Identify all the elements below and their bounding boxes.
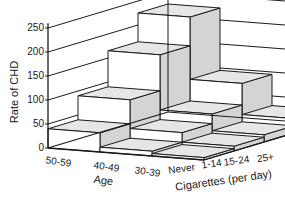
age-label: 30-39 xyxy=(134,164,161,179)
y-tick-labels: 0 50 100 150 200 250 xyxy=(27,22,44,153)
y-tick: 50 xyxy=(33,118,45,129)
y-tick: 0 xyxy=(38,142,44,153)
cig-label: Never xyxy=(168,161,197,176)
cig-label: 1-14 xyxy=(201,157,223,171)
y-tick: 200 xyxy=(27,46,44,57)
cig-label: 15-24 xyxy=(223,153,250,168)
y-axis-label: Rate of CHD xyxy=(8,61,20,123)
bars xyxy=(48,4,285,160)
cig-label: 25+ xyxy=(256,151,274,164)
y-tick: 250 xyxy=(27,22,44,33)
y-tick: 100 xyxy=(27,94,44,105)
gridline-back-wall xyxy=(168,0,285,4)
y-tick: 150 xyxy=(27,70,44,81)
age-label: 40-49 xyxy=(93,159,120,174)
chd-3d-bar-chart: 0 50 100 150 200 250 Rate of CHD 50-59 4… xyxy=(0,0,285,201)
age-label: 50-59 xyxy=(45,154,72,169)
age-axis-title: Age xyxy=(93,173,114,188)
